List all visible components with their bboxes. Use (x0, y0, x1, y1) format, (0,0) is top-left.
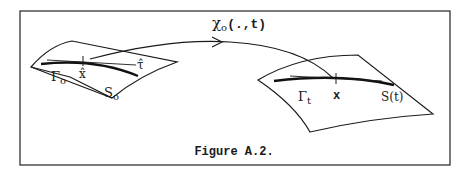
right-surface-patch (258, 55, 433, 132)
right-point-label: x (333, 89, 340, 103)
right-surface-label: S(t) (381, 90, 403, 104)
right-curve-label: Γt (298, 89, 311, 106)
left-point-label: x̂ (79, 67, 86, 81)
left-surface-lower-edge (31, 67, 112, 98)
left-curve-label: Γo (51, 69, 66, 86)
left-surface-label: So (104, 85, 119, 102)
figure-canvas: χo(.,t) Γo x̂ τ̂ So Γt x S(t) Figure A.2… (0, 0, 469, 175)
left-tangent-label: τ̂ (137, 58, 144, 72)
figure-caption: Figure A.2. (194, 145, 273, 159)
right-curve-gamma (274, 78, 394, 85)
map-label: χo(.,t) (212, 14, 266, 33)
